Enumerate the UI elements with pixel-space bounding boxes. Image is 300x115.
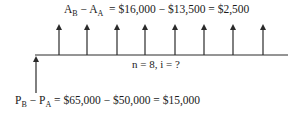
annual-difference-equation: = $16,000 − $13,500 = $2,500 xyxy=(103,3,249,15)
annual-difference-label: AB − AA = $16,000 − $13,500 = $2,500 xyxy=(64,4,249,18)
minus-sign: − xyxy=(78,3,90,15)
symbol-a: A xyxy=(89,3,97,15)
periodic-cash-flow-arrows xyxy=(59,27,263,55)
period-rate-label: n = 8, i = ? xyxy=(132,59,180,70)
minus-sign: − xyxy=(27,94,39,106)
initial-difference-label: PB − PA = $65,000 − $50,000 = $15,000 xyxy=(15,95,200,109)
initial-difference-equation: = $65,000 − $50,000 = $15,000 xyxy=(51,94,200,106)
